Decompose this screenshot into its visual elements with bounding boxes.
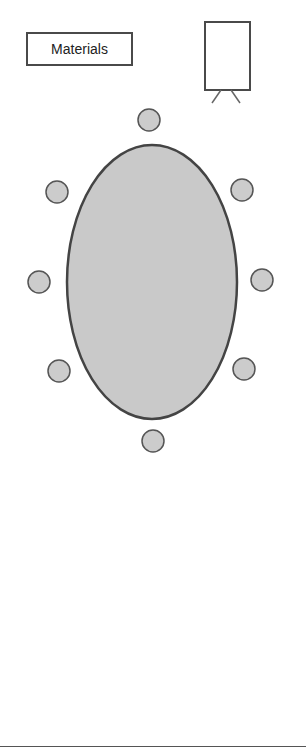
chair-mid-left-icon [28, 271, 50, 293]
chair-lower-left-icon [48, 360, 70, 382]
conference-table [67, 145, 237, 419]
chair-upper-right-icon [231, 179, 253, 201]
room-diagram [0, 0, 306, 750]
chair-top-icon [138, 109, 160, 131]
bottom-divider [0, 746, 306, 747]
chair-upper-left-icon [46, 181, 68, 203]
flipchart-icon [205, 22, 250, 103]
chair-lower-right-icon [233, 358, 255, 380]
chair-mid-right-icon [251, 269, 273, 291]
chair-bottom-icon [142, 430, 164, 452]
